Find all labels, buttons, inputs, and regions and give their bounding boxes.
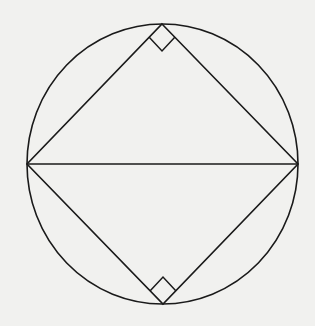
right-angle-marker-top bbox=[149, 37, 175, 51]
geometry-diagram bbox=[0, 0, 315, 326]
diagram-figure bbox=[0, 0, 315, 326]
right-angle-marker-bottom bbox=[150, 277, 176, 291]
